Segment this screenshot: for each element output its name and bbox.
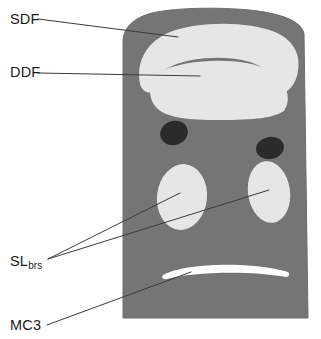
label-ddf: DDF xyxy=(10,65,40,80)
label-sdf-text: SDF xyxy=(10,11,40,27)
label-slbrs-text: SL xyxy=(10,253,28,269)
label-slbrs: SLbrs xyxy=(10,254,42,269)
figure-root: SDF DDF SLbrs MC3 xyxy=(0,0,321,339)
ddf-region xyxy=(150,61,288,120)
label-slbrs-subscript: brs xyxy=(28,260,42,271)
label-ddf-text: DDF xyxy=(10,64,40,80)
label-sdf: SDF xyxy=(10,12,40,27)
cross-section-illustration xyxy=(0,0,321,339)
label-mc3: MC3 xyxy=(10,318,41,333)
label-mc3-text: MC3 xyxy=(10,317,41,333)
